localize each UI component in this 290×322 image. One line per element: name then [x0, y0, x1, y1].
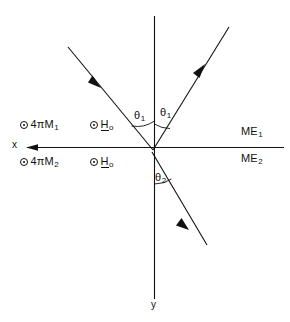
medium-lower-subscript: 2 [258, 157, 263, 166]
incident-ray-line [68, 47, 153, 150]
theta2-label: θ2 [155, 172, 166, 185]
magnetization-lower-text: 4πM [31, 155, 54, 167]
magnetization-upper-subscript: 1 [54, 123, 59, 132]
medium-upper-subscript: 1 [258, 130, 263, 139]
circle-dot-icon [90, 121, 98, 129]
medium-lower-text: ME [241, 152, 258, 164]
circle-dot-icon [20, 121, 28, 129]
medium-upper-label: ME1 [241, 126, 263, 139]
transmitted-ray-line [152, 152, 207, 245]
reflected-ray-line [153, 27, 229, 150]
reflected-ray-arrowhead-icon [193, 64, 205, 78]
theta1-left-subscript: 1 [140, 114, 145, 123]
theta1-right-subscript: 1 [166, 111, 171, 120]
theta2-subscript: 2 [161, 176, 166, 185]
magnetization-lower-label: 4πM2 [20, 156, 59, 169]
x-axis-arrowhead-icon [26, 144, 38, 151]
incident-ray-arrowhead-icon [88, 76, 101, 89]
bias-field-lower-text: H [101, 155, 109, 168]
y-axis-label: y [151, 300, 156, 310]
x-axis-label: x [12, 140, 17, 150]
magnetization-lower-subscript: 2 [54, 160, 59, 169]
bias-field-lower-subscript: o [109, 160, 114, 169]
theta1-right-label: θ1 [160, 107, 171, 120]
bias-field-upper-text: H [101, 118, 109, 131]
magnetization-upper-label: 4πM1 [20, 119, 59, 132]
circle-dot-icon [20, 158, 28, 166]
bias-field-upper-subscript: o [109, 123, 114, 132]
ray-diagram-figure: x y 4πM1 4πM2 Ho Ho ME1 ME2 θ1 θ1 θ2 [0, 0, 290, 322]
circle-dot-icon [90, 158, 98, 166]
theta1-left-label: θ1 [134, 110, 145, 123]
bias-field-lower-label: Ho [90, 156, 114, 169]
bias-field-upper-label: Ho [90, 119, 114, 132]
transmitted-ray-arrowhead-icon [176, 218, 189, 230]
medium-upper-text: ME [241, 125, 258, 137]
magnetization-upper-text: 4πM [31, 118, 54, 130]
medium-lower-label: ME2 [241, 153, 263, 166]
